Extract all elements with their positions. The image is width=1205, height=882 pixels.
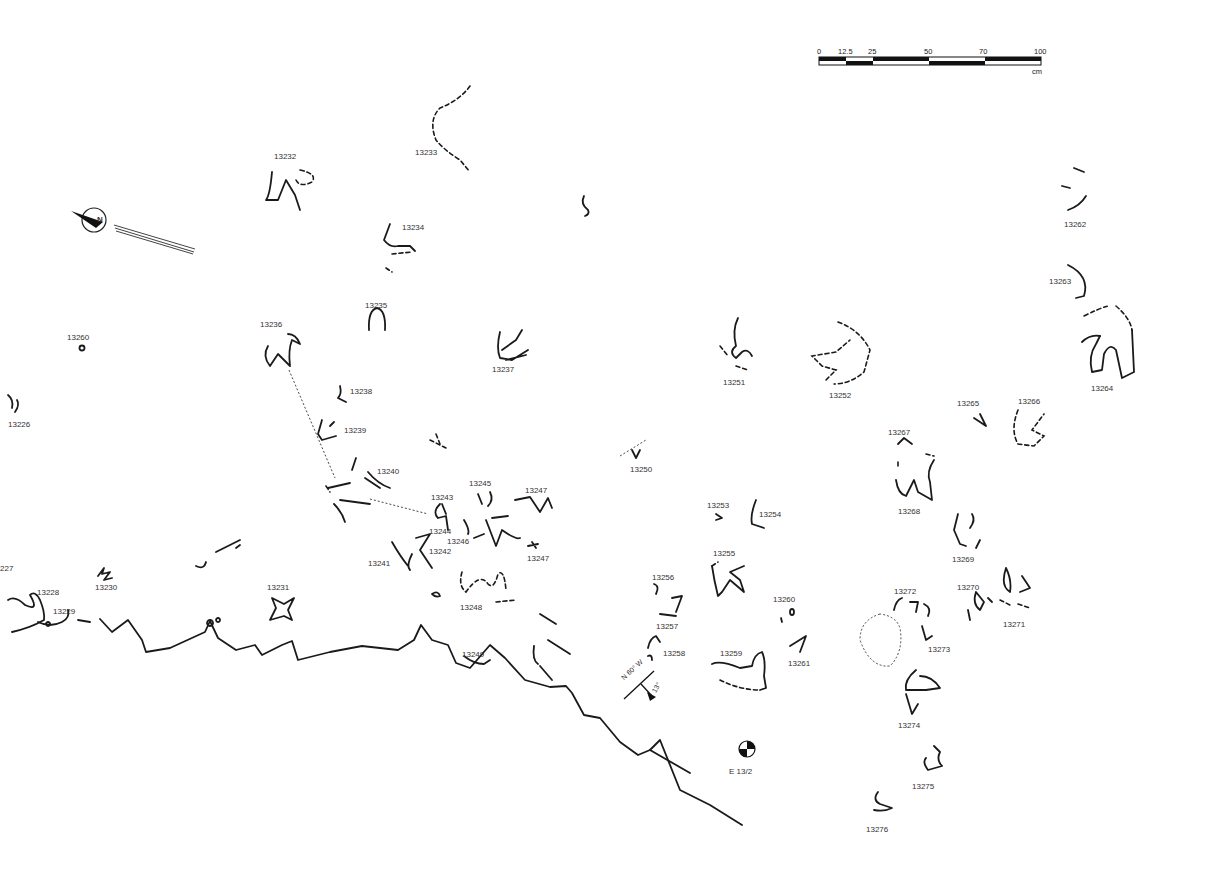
track-label: 13262: [1064, 221, 1086, 229]
track-label: 13245: [469, 480, 491, 488]
scale-tick-50: 50: [924, 48, 932, 56]
track-label: 13229: [53, 608, 75, 616]
track-label: 13234: [402, 224, 424, 232]
track-label: 13256: [652, 574, 674, 582]
track-label: 13272: [894, 588, 916, 596]
scale-tick-70: 70: [979, 48, 987, 56]
track-label: 13271: [1003, 621, 1025, 629]
track-label: 13228: [37, 589, 59, 597]
track-label: 13241: [368, 560, 390, 568]
track-label: 13238: [350, 388, 372, 396]
scale-tick-0: 0: [817, 48, 821, 56]
track-label: 13232: [274, 153, 296, 161]
track-label: 13230: [95, 584, 117, 592]
station-label: E 13/2: [729, 768, 752, 776]
track-label: 13260: [773, 596, 795, 604]
track-label: 13231: [267, 584, 289, 592]
scale-unit: cm: [1032, 68, 1042, 76]
scale-tick-100: 100: [1034, 48, 1047, 56]
track-label: 13237: [492, 366, 514, 374]
track-label: 13273: [928, 646, 950, 654]
survey-station-icon: [739, 741, 755, 757]
scale-tick-12-5: 12.5: [838, 48, 853, 56]
track-label: 13254: [759, 511, 781, 519]
trackway-map-drawing: [0, 0, 1205, 882]
track-label: 13253: [707, 502, 729, 510]
track-label: 13246: [447, 538, 469, 546]
track-label: 13257: [656, 623, 678, 631]
track-label: 13267: [888, 429, 910, 437]
scale-bar: [819, 57, 1041, 65]
track-label: 13250: [630, 466, 652, 474]
track-label: 13275: [912, 783, 934, 791]
track-label: 13239: [344, 427, 366, 435]
track-label: 13226: [8, 421, 30, 429]
track-label: 13265: [957, 400, 979, 408]
track-label: 13276: [866, 826, 888, 834]
track-label: 13252: [829, 392, 851, 400]
track-label: 13240: [377, 468, 399, 476]
north-label: N: [97, 216, 103, 224]
north-arrow-icon: [71, 208, 195, 254]
track-label: 13261: [788, 660, 810, 668]
outcrop-edge-line: [78, 619, 742, 825]
track-label: 13233: [415, 149, 437, 157]
track-label: 13249: [462, 651, 484, 659]
track-label: 13263: [1049, 278, 1071, 286]
track-label: 13269: [952, 556, 974, 564]
track-label: 13242: [429, 548, 451, 556]
track-label: 13247: [527, 555, 549, 563]
track-label: 13270: [957, 584, 979, 592]
scale-tick-25: 25: [868, 48, 876, 56]
track-label: 13260: [67, 334, 89, 342]
track-label: 13248: [460, 604, 482, 612]
track-label: 13251: [723, 379, 745, 387]
track-label: 13268: [898, 508, 920, 516]
track-label: 13244: [429, 528, 451, 536]
track-label: 13255: [713, 550, 735, 558]
track-label: 13235: [365, 302, 387, 310]
track-label: 13236: [260, 321, 282, 329]
track-label: 13274: [898, 722, 920, 730]
track-label: 227: [0, 565, 13, 573]
footprint-outlines: [8, 86, 1134, 811]
track-label: 13258: [663, 650, 685, 658]
track-label: 13259: [720, 650, 742, 658]
track-label: 13247: [525, 487, 547, 495]
edge-branch: [650, 750, 690, 773]
track-label: 13264: [1091, 385, 1113, 393]
track-label: 13266: [1018, 398, 1040, 406]
track-label: 13243: [431, 494, 453, 502]
